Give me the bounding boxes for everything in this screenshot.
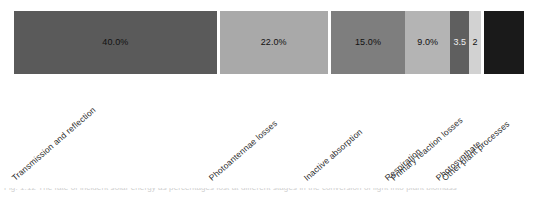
stacked-bar: 40.0% 22.0% 15.0% 9.0% 3.5 2	[14, 11, 524, 74]
bar-segment-value-label: 3.5	[453, 38, 466, 47]
bar-segment-value-label: 15.0%	[355, 38, 381, 47]
category-label-transmission-and-reflection: Transmission and reflection	[10, 105, 97, 182]
bar-segment-value-label: 2	[473, 38, 478, 47]
chart-figure: 40.0% 22.0% 15.0% 9.0% 3.5 2 Transmissio…	[0, 0, 546, 198]
bar-segment-other-plant-processes[interactable]	[484, 11, 524, 74]
bar-segment-transmission-and-reflection[interactable]: 40.0%	[14, 11, 217, 74]
bar-segment-value-label: 40.0%	[102, 38, 128, 47]
bar-segment-inactive-absorption[interactable]: 15.0%	[331, 11, 406, 74]
bar-segment-photoantennae-losses[interactable]: 22.0%	[220, 11, 328, 74]
bar-segment-photosynthate[interactable]: 2	[469, 11, 480, 74]
figure-caption-strip: Fig. 1.12 The fate of incident solar ene…	[0, 188, 546, 198]
bar-segment-value-label: 9.0%	[417, 38, 438, 47]
bar-segment-respiration[interactable]: 9.0%	[405, 11, 450, 74]
category-label-layer: Transmission and reflection Photoantenna…	[0, 74, 546, 184]
category-label-inactive-absorption: Inactive absorption	[302, 127, 364, 182]
category-label-photoantennae-losses: Photoantennae losses	[207, 119, 278, 183]
bar-segment-primary-reaction-losses[interactable]: 3.5	[450, 11, 469, 74]
figure-caption: Fig. 1.12 The fate of incident solar ene…	[4, 188, 457, 192]
bar-segment-value-label: 22.0%	[261, 38, 287, 47]
